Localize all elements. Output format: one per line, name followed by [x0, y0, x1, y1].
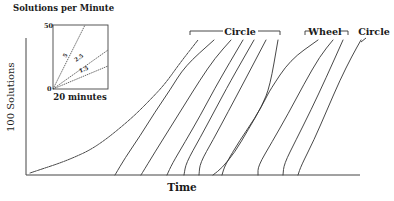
- group-label-wheel: Wheel: [305, 26, 348, 37]
- curve-wheel-8: [258, 40, 333, 175]
- curve-circle-0: [30, 40, 198, 173]
- group-label-circle-1: Circle: [190, 26, 280, 37]
- circle-leader-line: [361, 38, 366, 42]
- rate-label-2-5: 2.5: [73, 52, 84, 63]
- group-label-circle-2: Circle: [358, 26, 390, 43]
- wheel-group-label: Wheel: [307, 26, 342, 37]
- curve-circle-7: [222, 40, 318, 175]
- circle-final-label: Circle: [358, 26, 390, 37]
- chart-canvas: 100 Solutions Time Solutions per Minute …: [0, 0, 394, 201]
- curve-circle-4: [184, 40, 254, 175]
- inset-x-label: 20 minutes: [53, 92, 107, 102]
- curve-circle-6: [213, 40, 278, 175]
- curve-circle-2: [141, 40, 231, 175]
- inset-y-bottom-label: 0: [47, 85, 52, 93]
- chart-figure: 100 Solutions Time Solutions per Minute …: [0, 0, 394, 201]
- inset-title: Solutions per Minute: [13, 3, 115, 13]
- y-axis-label: 100 Solutions: [5, 62, 16, 132]
- curve-circle-1: [115, 40, 214, 175]
- rate-label-1-5: 1.5: [78, 65, 89, 74]
- inset-rate-legend: Solutions per Minute 50 0 20 minutes 5 2…: [13, 3, 115, 102]
- circle-group-label: Circle: [224, 26, 256, 37]
- inset-y-top-label: 50: [44, 22, 54, 30]
- x-axis-label: Time: [167, 181, 197, 193]
- rate-label-5: 5: [62, 52, 69, 58]
- curve-circle-10: [298, 40, 361, 175]
